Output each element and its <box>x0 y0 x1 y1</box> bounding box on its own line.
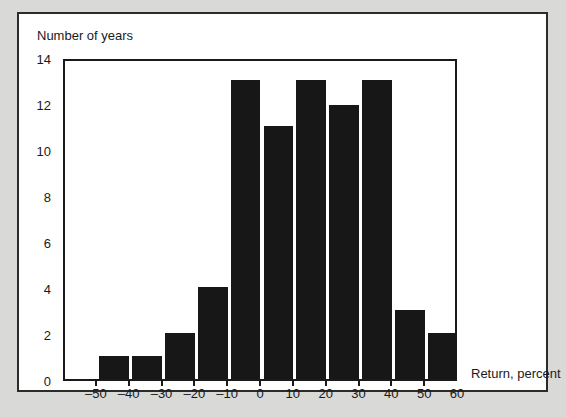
x-axis-tick-label: –30 <box>151 386 173 401</box>
y-axis-tick-label: 6 <box>44 236 51 251</box>
y-axis-tick-label: 8 <box>44 190 51 205</box>
x-axis-tick-mark <box>226 381 228 386</box>
histogram-bar <box>296 80 326 379</box>
x-axis-tick-mark <box>95 381 97 386</box>
histogram-bar <box>264 126 294 379</box>
histogram-bar <box>362 80 392 379</box>
y-axis-tick-label: 14 <box>37 52 51 67</box>
plot-frame <box>63 59 457 381</box>
x-axis-tick-label: –10 <box>216 386 238 401</box>
histogram-bar <box>395 310 425 379</box>
y-axis-title: Number of years <box>37 28 133 43</box>
histogram-chart: Number of years Return, percent 02468101… <box>19 14 546 390</box>
figure-card: Number of years Return, percent 02468101… <box>17 12 548 392</box>
y-axis-tick-label: 0 <box>44 374 51 389</box>
x-axis-tick-mark <box>128 381 130 386</box>
histogram-bar <box>99 356 129 379</box>
x-axis-tick-mark <box>259 381 261 386</box>
x-axis-tick-mark <box>358 381 360 386</box>
histogram-bar <box>231 80 261 379</box>
x-axis-tick-mark <box>325 381 327 386</box>
x-axis-tick-label: 60 <box>450 386 464 401</box>
x-axis-tick-label: 50 <box>417 386 431 401</box>
x-axis-tick-label: 30 <box>351 386 365 401</box>
x-axis-tick-label: 0 <box>256 386 263 401</box>
x-axis-tick-label: 10 <box>286 386 300 401</box>
x-axis-tick-label: 20 <box>318 386 332 401</box>
x-axis-tick-mark <box>292 381 294 386</box>
x-axis-tick-label: –40 <box>118 386 140 401</box>
x-axis-tick-mark <box>390 381 392 386</box>
x-axis-tick-mark <box>193 381 195 386</box>
y-axis-tick-label: 12 <box>37 98 51 113</box>
x-axis-tick-label: –20 <box>183 386 205 401</box>
histogram-bar <box>329 105 359 379</box>
histogram-bar <box>165 333 195 379</box>
x-axis-title: Return, percent <box>471 366 561 381</box>
y-axis-tick-label: 4 <box>44 282 51 297</box>
y-axis-tick-label: 2 <box>44 328 51 343</box>
y-axis-tick-label: 10 <box>37 144 51 159</box>
x-axis-tick-mark <box>423 381 425 386</box>
histogram-bar <box>428 333 458 379</box>
x-axis-tick-label: –50 <box>85 386 107 401</box>
x-axis-tick-mark <box>161 381 163 386</box>
histogram-bar <box>132 356 162 379</box>
histogram-bar <box>198 287 228 379</box>
x-axis-tick-label: 40 <box>384 386 398 401</box>
bars-layer <box>65 61 455 379</box>
